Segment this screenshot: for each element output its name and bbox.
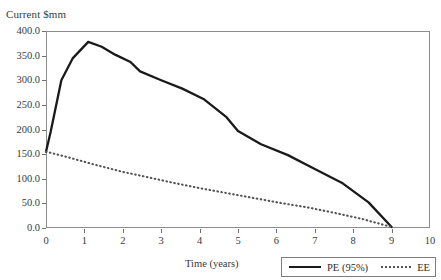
y-tick-label: 200.0 <box>0 125 40 135</box>
y-tick-label: 300.0 <box>0 75 40 85</box>
x-tick-mark <box>276 229 277 233</box>
legend-swatch-dotted-icon <box>381 266 411 268</box>
y-tick-mark <box>42 56 46 57</box>
x-tick-mark <box>238 229 239 233</box>
x-tick-label: 10 <box>420 236 440 246</box>
x-tick-mark <box>84 229 85 233</box>
legend-item-pe: PE (95%) <box>289 262 368 273</box>
chart-container: Current $mm 0.050.0100.0150.0200.0250.03… <box>0 0 441 280</box>
y-tick-mark <box>42 228 46 229</box>
legend-label-ee: EE <box>417 262 430 273</box>
legend-item-ee: EE <box>381 262 430 273</box>
plot-area <box>46 31 430 228</box>
x-tick-mark <box>392 229 393 233</box>
y-tick-label: 150.0 <box>0 149 40 159</box>
y-tick-mark <box>42 154 46 155</box>
x-tick-mark <box>315 229 316 233</box>
y-tick-label: 250.0 <box>0 100 40 110</box>
x-tick-label: 5 <box>228 236 248 246</box>
legend-label-pe: PE (95%) <box>327 262 368 273</box>
y-tick-label: 50.0 <box>0 198 40 208</box>
x-tick-mark <box>353 229 354 233</box>
y-tick-mark <box>42 80 46 81</box>
y-tick-label: 100.0 <box>0 174 40 184</box>
x-tick-label: 9 <box>382 236 402 246</box>
y-tick-mark <box>42 130 46 131</box>
chart-legend: PE (95%) EE <box>281 257 436 277</box>
x-tick-label: 6 <box>266 236 286 246</box>
x-tick-label: 1 <box>74 236 94 246</box>
y-tick-mark <box>42 179 46 180</box>
y-tick-label: 350.0 <box>0 51 40 61</box>
legend-swatch-solid-icon <box>289 266 321 268</box>
y-axis-title: Current $mm <box>6 8 66 20</box>
x-tick-mark <box>161 229 162 233</box>
x-tick-label: 3 <box>151 236 171 246</box>
y-tick-mark <box>42 31 46 32</box>
y-tick-label: 0.0 <box>0 223 40 233</box>
x-tick-label: 4 <box>190 236 210 246</box>
y-tick-mark <box>42 203 46 204</box>
x-tick-label: 7 <box>305 236 325 246</box>
x-tick-mark <box>200 229 201 233</box>
x-axis-title: Time (years) <box>185 258 239 269</box>
x-tick-label: 2 <box>113 236 133 246</box>
y-tick-mark <box>42 105 46 106</box>
x-tick-label: 8 <box>343 236 363 246</box>
x-tick-label: 0 <box>36 236 56 246</box>
x-tick-mark <box>123 229 124 233</box>
y-tick-label: 400.0 <box>0 26 40 36</box>
